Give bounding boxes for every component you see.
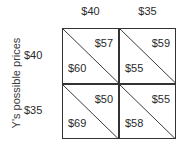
- payoff-lower: $58: [125, 117, 143, 129]
- row-axis-label: Y's possible prices: [10, 33, 22, 133]
- payoff-lower: $69: [68, 117, 86, 129]
- row-label-2: $35: [24, 104, 42, 116]
- payoff-upper: $57: [95, 37, 113, 49]
- row-label-1: $40: [24, 49, 42, 61]
- payoff-grid: $57 $60 $59 $55 $50 $69 $55 $58: [62, 28, 176, 139]
- payoff-upper: $50: [95, 93, 113, 105]
- payoff-upper: $59: [152, 37, 170, 49]
- cell-r1-c2: $59 $55: [119, 28, 176, 84]
- payoff-upper: $55: [152, 93, 170, 105]
- payoff-lower: $60: [68, 62, 86, 74]
- cell-r2-c1: $50 $69: [62, 84, 119, 140]
- cell-r1-c1: $57 $60: [62, 28, 119, 84]
- column-label-2: $35: [119, 5, 176, 17]
- column-label-1: $40: [62, 5, 119, 17]
- payoff-lower: $55: [125, 62, 143, 74]
- cell-r2-c2: $55 $58: [119, 84, 176, 140]
